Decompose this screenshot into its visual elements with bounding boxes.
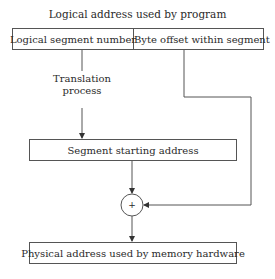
segment-start-label: Segment starting address (67, 145, 198, 156)
translation-process-label: Translation process (42, 73, 122, 97)
segment-start-box: Segment starting address (29, 139, 237, 161)
segment-number-label: Logical segment number (10, 34, 136, 45)
byte-offset-label: Byte offset within segment (134, 34, 270, 45)
adder-plus-symbol: + (122, 199, 142, 211)
logical-address-box: Logical segment number Byte offset withi… (12, 28, 264, 50)
physical-address-box: Physical address used by memory hardware (29, 242, 237, 264)
physical-address-label: Physical address used by memory hardware (21, 248, 245, 259)
byte-offset-field: Byte offset within segment (134, 29, 270, 49)
top-caption: Logical address used by program (0, 8, 275, 20)
segment-number-field: Logical segment number (13, 29, 134, 49)
